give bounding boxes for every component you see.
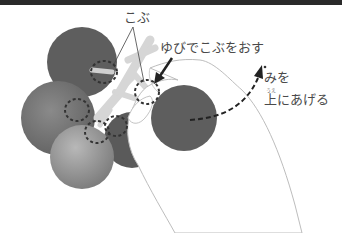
push-instruction-label: ゆびでこぶをおす [160,41,264,54]
tomato-front-light [50,125,114,189]
lift-label-line2: 上にあげる [264,93,329,106]
kobu-label: こぶ [124,11,150,24]
lift-label-line1: みを [264,71,290,84]
hand [128,59,302,233]
tomato-harvest-illustration [0,0,342,233]
